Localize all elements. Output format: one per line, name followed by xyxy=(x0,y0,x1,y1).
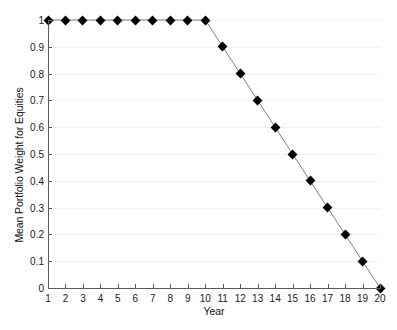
y-tick-mark xyxy=(48,261,52,262)
y-tick-mark xyxy=(48,234,52,235)
plot-area xyxy=(48,20,380,288)
y-tick-mark xyxy=(48,181,52,182)
y-tick-mark xyxy=(48,20,52,21)
x-tick-label: 20 xyxy=(368,293,392,304)
y-tick-label: 1 xyxy=(4,15,44,26)
y-tick-mark xyxy=(48,208,52,209)
chart-figure: Mean Portfolio Weight for Equities 00.10… xyxy=(0,0,397,330)
y-tick-mark xyxy=(48,47,52,48)
y-tick-mark xyxy=(48,74,52,75)
y-tick-mark xyxy=(48,100,52,101)
y-tick-label: 0.7 xyxy=(4,95,44,106)
y-tick-label: 0.3 xyxy=(4,202,44,213)
y-tick-label: 0.8 xyxy=(4,68,44,79)
y-tick-label: 0.6 xyxy=(4,122,44,133)
x-axis-title: Year xyxy=(48,305,380,317)
y-tick-label: 0.9 xyxy=(4,41,44,52)
y-tick-label: 0.1 xyxy=(4,256,44,267)
y-tick-label: 0.4 xyxy=(4,175,44,186)
y-axis-tick-labels: 00.10.20.30.40.50.60.70.80.91 xyxy=(0,0,44,330)
y-tick-label: 0.5 xyxy=(4,149,44,160)
y-tick-mark xyxy=(48,154,52,155)
y-tick-mark xyxy=(48,127,52,128)
series-line xyxy=(48,20,380,288)
y-tick-label: 0.2 xyxy=(4,229,44,240)
